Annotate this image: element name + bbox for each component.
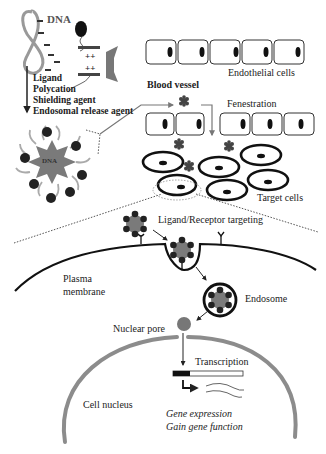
endothelial-cells-bottom: [146, 113, 314, 135]
plasma-membrane-label-2: membrane: [63, 287, 105, 297]
negative-charges: [37, 21, 60, 70]
nanoparticle-core-label: DNA: [42, 158, 57, 165]
component-shielding: Shielding agent: [33, 96, 96, 106]
gain-gene-function-label: Gain gene function: [166, 422, 243, 432]
released-dna-icon: [177, 317, 191, 331]
dna-label: DNA: [47, 14, 71, 25]
target-cells-label: Target cells: [257, 193, 303, 203]
promoter-arrow: [183, 380, 197, 388]
plasma-membrane: [15, 244, 316, 291]
nanoparticle-internalizing: [170, 237, 194, 264]
component-polycation: Polycation: [33, 85, 76, 95]
gene-icon: [173, 371, 243, 376]
charge-plus-2: ++: [85, 64, 95, 73]
plasma-membrane-label-1: Plasma: [63, 274, 92, 284]
transcription-label: Transcription: [195, 357, 249, 367]
component-endosomal: Endosomal release agent: [33, 107, 133, 117]
extravasation-arrow: [201, 105, 212, 135]
nuclear-pore-label: Nuclear pore: [113, 324, 165, 334]
endosome-icon: [204, 284, 236, 316]
nanoparticle-bound: [123, 211, 147, 238]
endothelial-cells-label: Endothelial cells: [228, 68, 295, 78]
fenestration-label: Fenestration: [227, 99, 276, 109]
gene-expression-label: Gene expression: [166, 409, 232, 419]
particle-in-vessel: [179, 95, 189, 107]
charge-plus-1: ++: [85, 52, 95, 61]
component-ligand: Ligand: [33, 74, 62, 84]
cell-nucleus-label: Cell nucleus: [83, 400, 133, 410]
mrna-icon: [206, 383, 244, 397]
nuclear-envelope-left: [64, 337, 177, 442]
blood-vessel-label: Blood vessel: [147, 80, 199, 90]
shielding-agent-icon: [106, 46, 118, 82]
ligand-receptor-targeting-label: Ligand/Receptor targeting: [158, 215, 263, 225]
endosome-label: Endosome: [245, 294, 287, 304]
